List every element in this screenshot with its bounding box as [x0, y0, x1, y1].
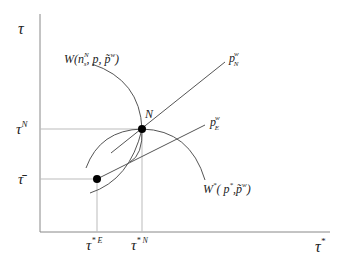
tick-tau-bar: τ̄ — [18, 171, 27, 187]
label-p-E-w: pwE — [209, 114, 220, 132]
y-axis-label: τ — [18, 20, 25, 37]
point-N-label: N — [144, 107, 154, 121]
label-curve-W-star: W*( p*,p̃w) — [203, 181, 251, 196]
tick-tau-star-N: τ* N — [131, 236, 148, 253]
point-E — [93, 175, 101, 183]
label-p-N-w: pwN — [228, 50, 239, 68]
tick-tau-star-E: τ* E — [86, 236, 102, 253]
curve-W — [92, 64, 142, 162]
label-curve-W: W(nNs, p, p̃w) — [64, 51, 119, 68]
x-axis-label: τ* — [315, 236, 326, 255]
curve-lower — [90, 129, 142, 193]
line-p-E-w — [97, 125, 205, 179]
point-N — [138, 125, 146, 133]
equilibrium-diagram: τ τ* τN τ̄ τ* E τ* N N pwN pwE W(nNs, p,… — [0, 0, 349, 260]
line-p-N-w — [111, 62, 225, 153]
tick-tau-N: τN — [16, 119, 28, 137]
